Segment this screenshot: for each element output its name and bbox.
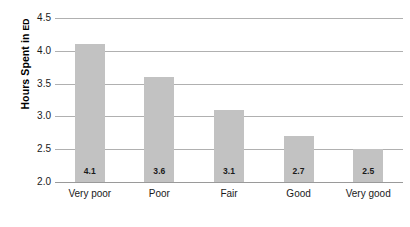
x-tick-label: Very poor (68, 188, 111, 200)
y-tick-label: 2.5 (21, 144, 51, 154)
x-axis-tick-labels: Very poorPoorFairGoodVery good (55, 188, 403, 202)
bar-value-label: 2.7 (293, 166, 305, 176)
y-tick-label: 4.0 (21, 46, 51, 56)
bar-value-label: 3.1 (223, 166, 235, 176)
y-tick-label: 2.0 (21, 177, 51, 187)
bar-chart-figure: Hours Spent in ED 4.54.03.53.02.52.0 4.1… (0, 0, 410, 227)
x-tick-label: Fair (220, 188, 237, 200)
clipped-caption (0, 221, 410, 227)
x-tick-label: Good (286, 188, 310, 200)
bar[interactable] (75, 44, 105, 182)
y-tick-label: 3.5 (21, 79, 51, 89)
bar-slot: 4.1 (55, 18, 125, 182)
bar-slot: 2.5 (333, 18, 403, 182)
bar-slot: 3.1 (194, 18, 264, 182)
x-tick-label: Poor (149, 188, 170, 200)
bars-layer: 4.13.63.12.72.5 (55, 18, 403, 182)
bar-slot: 3.6 (125, 18, 195, 182)
bar-value-label: 2.5 (362, 166, 374, 176)
bar-slot: 2.7 (264, 18, 334, 182)
bar-value-label: 4.1 (84, 166, 96, 176)
bar-value-label: 3.6 (153, 166, 165, 176)
x-tick-label: Very good (346, 188, 391, 200)
gridline (55, 182, 403, 183)
y-tick-label: 4.5 (21, 13, 51, 23)
y-tick-label: 3.0 (21, 111, 51, 121)
